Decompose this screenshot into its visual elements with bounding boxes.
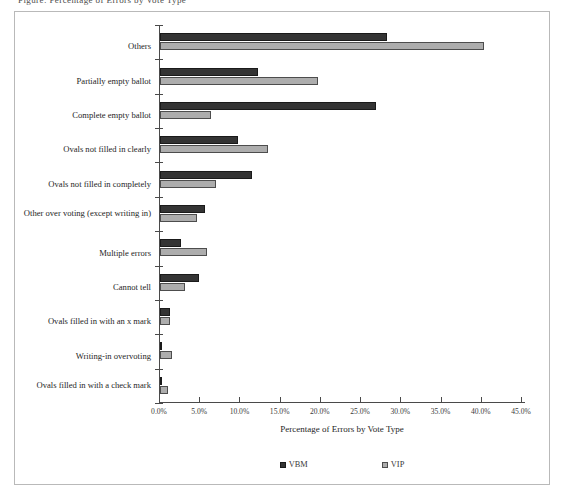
bar-group: Ovals filled in with a check mark [160, 377, 525, 394]
y-axis-tick [155, 266, 163, 267]
bar-group: Complete empty ballot [160, 102, 525, 119]
bar-vip [160, 77, 318, 85]
y-axis-tick [155, 369, 163, 370]
bar-vbm [160, 308, 170, 316]
y-axis-tick [155, 94, 163, 95]
category-label: Ovals filled in with an x mark [1, 316, 151, 326]
legend-swatch-icon [382, 462, 388, 468]
y-axis-tick [155, 197, 163, 198]
bar-vbm [160, 239, 181, 247]
x-axis-title: Percentage of Errors by Vote Type [159, 424, 525, 434]
x-axis-tick [400, 397, 401, 403]
x-axis-tick-label: 15.0% [258, 407, 302, 416]
plot-area: OthersPartially empty ballotComplete emp… [159, 25, 525, 403]
x-axis-tick-label: 5.0% [177, 407, 221, 416]
y-axis-tick [155, 162, 163, 163]
category-label: Others [1, 41, 151, 51]
category-label: Complete empty ballot [1, 110, 151, 120]
y-axis-tick [155, 25, 163, 26]
x-axis-tick [481, 397, 482, 403]
category-label: Ovals filled in with a check mark [1, 380, 151, 390]
x-axis-tick [320, 397, 321, 403]
legend-item-vip[interactable]: VIP [382, 460, 405, 469]
y-axis-tick [155, 128, 163, 129]
bar-group: Other over voting (except writing in) [160, 205, 525, 222]
x-axis-tick-label: 25.0% [338, 407, 382, 416]
bar-vip [160, 42, 484, 50]
x-axis-tick [360, 397, 361, 403]
bar-vip [160, 248, 207, 256]
bar-vip [160, 180, 216, 188]
bar-vbm [160, 205, 205, 213]
legend-item-vbm[interactable]: VBM [280, 460, 308, 469]
bar-group: Cannot tell [160, 274, 525, 291]
x-axis-tick-label: 45.0% [499, 407, 543, 416]
bar-vip [160, 283, 185, 291]
legend-label: VIP [391, 460, 405, 469]
category-label: Ovals not filled in clearly [1, 144, 151, 154]
bar-vbm [160, 377, 162, 385]
category-label: Cannot tell [1, 282, 151, 292]
x-axis-line [159, 402, 525, 403]
legend-swatch-icon [280, 462, 286, 468]
bar-vbm [160, 102, 376, 110]
y-axis-tick [155, 59, 163, 60]
category-label: Multiple errors [1, 248, 151, 258]
category-label: Other over voting (except writing in) [1, 208, 151, 218]
x-axis-tick [441, 397, 442, 403]
bar-vbm [160, 68, 258, 76]
x-axis-tick [199, 397, 200, 403]
bar-vbm [160, 342, 162, 350]
bar-group: Multiple errors [160, 239, 525, 256]
bar-vbm [160, 171, 252, 179]
y-axis-tick [155, 334, 163, 335]
chart-legend: VBMVIP [159, 460, 525, 469]
x-axis-tick [159, 397, 160, 403]
x-axis-tick [239, 397, 240, 403]
bar-group: Ovals filled in with an x mark [160, 308, 525, 325]
bar-vip [160, 111, 211, 119]
y-axis-tick [155, 403, 163, 404]
x-axis-tick-label: 0.0% [137, 407, 181, 416]
category-label: Ovals not filled in completely [1, 179, 151, 189]
x-axis-tick-label: 20.0% [298, 407, 342, 416]
bar-group: Others [160, 33, 525, 50]
category-label: Partially empty ballot [1, 76, 151, 86]
bar-group: Ovals not filled in completely [160, 171, 525, 188]
chart-frame: OthersPartially empty ballotComplete emp… [14, 11, 550, 485]
bar-vip [160, 214, 197, 222]
x-axis-tick-label: 30.0% [378, 407, 422, 416]
legend-label: VBM [289, 460, 308, 469]
bar-vip [160, 386, 168, 394]
x-axis-tick [280, 397, 281, 403]
top-text-fragment-label: Figure: Percentage of Errors by Vote Typ… [18, 0, 564, 5]
top-text-fragment: Figure: Percentage of Errors by Vote Typ… [0, 0, 564, 9]
bar-vbm [160, 33, 387, 41]
x-axis-tick-label: 40.0% [459, 407, 503, 416]
bar-vip [160, 145, 268, 153]
bar-group: Writing-in overvoting [160, 342, 525, 359]
x-axis-tick-label: 35.0% [419, 407, 463, 416]
y-axis-tick [155, 231, 163, 232]
y-axis-tick [155, 300, 163, 301]
x-axis-tick-label: 10.0% [217, 407, 261, 416]
bar-vbm [160, 274, 199, 282]
bar-group: Partially empty ballot [160, 68, 525, 85]
bar-group: Ovals not filled in clearly [160, 136, 525, 153]
bar-vip [160, 351, 172, 359]
category-label: Writing-in overvoting [1, 351, 151, 361]
bar-vip [160, 317, 170, 325]
x-axis-tick [521, 397, 522, 403]
bar-vbm [160, 136, 238, 144]
